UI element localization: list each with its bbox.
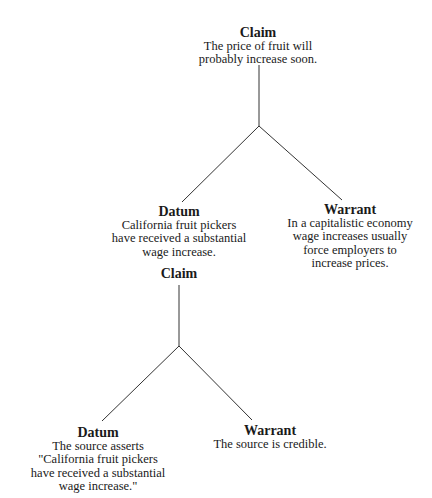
datum-heading: Datum bbox=[112, 205, 246, 219]
warrant-text-line: In a capitalistic economy bbox=[287, 217, 412, 230]
claim-text-line: probably increase soon. bbox=[199, 53, 317, 66]
warrant-node-2: Warrant The source is credible. bbox=[213, 424, 326, 451]
warrant-text-line: The source is credible. bbox=[213, 438, 326, 451]
datum-branch-line-2 bbox=[102, 346, 179, 421]
claim-node-2: Claim bbox=[161, 267, 198, 281]
datum-heading: Datum bbox=[31, 426, 165, 440]
warrant-node-1: Warrant In a capitalistic economy wage i… bbox=[287, 203, 412, 270]
datum-text-line: California fruit pickers bbox=[112, 219, 246, 232]
datum-text-line: wage increase. bbox=[112, 246, 246, 259]
datum-text-line: have received a substantial bbox=[31, 467, 165, 480]
datum-text-line: The source asserts bbox=[31, 440, 165, 453]
datum-text-line: have received a substantial bbox=[112, 232, 246, 245]
claim-text-line: The price of fruit will bbox=[199, 40, 317, 53]
datum-node-1: Datum California fruit pickers have rece… bbox=[112, 205, 246, 259]
warrant-text-line: force employers to bbox=[287, 244, 412, 257]
warrant-heading: Warrant bbox=[287, 203, 412, 217]
datum-node-2: Datum The source asserts "California fru… bbox=[31, 426, 165, 493]
claim-node-1: Claim The price of fruit will probably i… bbox=[199, 26, 317, 67]
warrant-branch-line-2 bbox=[179, 346, 252, 420]
claim-heading: Claim bbox=[199, 26, 317, 40]
warrant-heading: Warrant bbox=[213, 424, 326, 438]
claim-heading: Claim bbox=[161, 267, 198, 281]
warrant-text-line: increase prices. bbox=[287, 257, 412, 270]
warrant-text-line: wage increases usually bbox=[287, 230, 412, 243]
datum-text-line: "California fruit pickers bbox=[31, 453, 165, 466]
datum-branch-line-1 bbox=[182, 126, 259, 202]
datum-text-line: wage increase." bbox=[31, 480, 165, 493]
warrant-branch-line-1 bbox=[259, 126, 342, 200]
